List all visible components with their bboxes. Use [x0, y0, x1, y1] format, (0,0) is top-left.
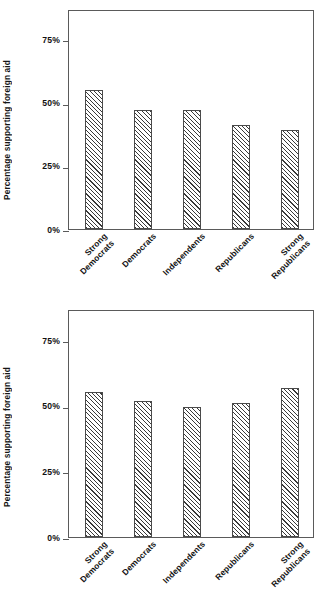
y-tick-mark: [63, 41, 69, 42]
x-axis-labels: StrongDemocratsDemocratsIndependentsRepu…: [68, 231, 314, 289]
bar-group: [69, 11, 313, 229]
figure: Percentage supporting foreign aid Non-So…: [0, 0, 328, 612]
x-axis-label-text: StrongDemocrats: [70, 231, 115, 276]
y-tick-label: 50%: [42, 98, 60, 108]
y-tick-label: 75%: [42, 35, 60, 45]
y-tick-label: 75%: [42, 336, 60, 346]
x-axis-label-text: StrongRepublicans: [262, 539, 312, 589]
x-axis-label-text: Republicans: [213, 231, 256, 274]
bar: [281, 388, 299, 537]
x-axis-labels: StrongDemocratsDemocratsIndependentsRepu…: [68, 539, 314, 597]
x-axis-label-text: StrongDemocrats: [70, 539, 115, 584]
x-axis-label-text: Democrats: [120, 539, 158, 577]
y-tick-label: 25%: [42, 161, 60, 171]
y-tick-mark: [63, 168, 69, 169]
bar: [85, 90, 103, 229]
plot-area: 75%50%25%0%: [68, 310, 314, 538]
x-axis-label-text: StrongRepublicans: [262, 231, 312, 281]
y-tick-mark: [63, 342, 69, 343]
bar: [281, 130, 299, 229]
y-tick-mark: [63, 408, 69, 409]
x-axis-label-text: Republicans: [213, 539, 256, 582]
plot-area: 75%50%25%0%: [68, 10, 314, 230]
bar: [134, 110, 152, 229]
bar: [232, 125, 250, 229]
bar: [232, 403, 250, 537]
y-axis-title: Percentage supporting foreign aid: [2, 32, 16, 228]
x-axis-label-text: Independents: [161, 231, 207, 277]
y-tick-label: 0%: [47, 533, 60, 543]
bar: [85, 392, 103, 537]
x-axis-label-text: Independents: [161, 539, 207, 585]
y-tick-mark: [63, 105, 69, 106]
y-tick-label: 0%: [47, 225, 60, 235]
chart-panel-non-south: Percentage supporting foreign aid Non-So…: [0, 0, 328, 296]
y-tick-label: 25%: [42, 467, 60, 477]
bar: [134, 401, 152, 537]
y-tick-mark: [63, 473, 69, 474]
x-axis-label-text: Democrats: [120, 231, 158, 269]
y-axis-title: Percentage supporting foreign aid: [2, 339, 16, 535]
y-tick-label: 50%: [42, 401, 60, 411]
bar: [183, 407, 201, 537]
bar: [183, 110, 201, 229]
bar-group: [69, 311, 313, 537]
chart-panel-south: Percentage supporting foreign aid South …: [0, 295, 328, 612]
